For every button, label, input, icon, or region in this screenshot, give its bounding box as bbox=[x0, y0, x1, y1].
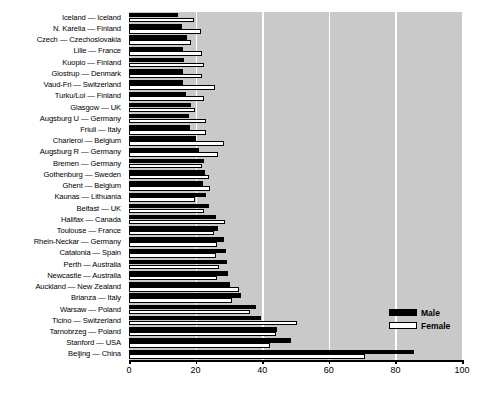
category-label: Turku/Loi — Finland bbox=[0, 91, 124, 102]
bar-female bbox=[129, 310, 250, 314]
bar-row bbox=[129, 236, 462, 247]
x-tick-label: 80 bbox=[390, 365, 400, 375]
bar-row bbox=[129, 135, 462, 146]
bar-male bbox=[129, 24, 182, 28]
bar-row bbox=[129, 23, 462, 34]
x-tick-label: 100 bbox=[454, 365, 469, 375]
bar-male bbox=[129, 204, 209, 208]
bar-row bbox=[129, 281, 462, 292]
x-tick bbox=[395, 360, 397, 364]
x-tick bbox=[462, 360, 464, 364]
category-label: Beijing — China bbox=[0, 349, 124, 360]
legend-swatch-male bbox=[389, 309, 417, 316]
x-tick bbox=[329, 360, 331, 364]
bar-female bbox=[129, 96, 204, 100]
bar-male bbox=[129, 136, 196, 140]
bar-female bbox=[129, 220, 225, 224]
bar-male bbox=[129, 159, 204, 163]
category-label: Kaunas — Lithuania bbox=[0, 192, 124, 203]
x-tick-label: 60 bbox=[324, 365, 334, 375]
x-tick bbox=[129, 360, 131, 364]
bar-female bbox=[129, 108, 195, 112]
bar-row bbox=[129, 192, 462, 203]
bar-row bbox=[129, 68, 462, 79]
category-label: Charleroi — Belgium bbox=[0, 135, 124, 146]
bar-row bbox=[129, 91, 462, 102]
bar-female bbox=[129, 332, 276, 336]
legend-label-female: Female bbox=[421, 321, 450, 331]
category-label: Iceland — Iceland bbox=[0, 12, 124, 23]
bar-male bbox=[129, 193, 206, 197]
bar-row bbox=[129, 203, 462, 214]
category-label: Perth — Australia bbox=[0, 259, 124, 270]
category-label: Lille — France bbox=[0, 46, 124, 57]
category-label: Glostrup — Denmark bbox=[0, 68, 124, 79]
x-tick-label: 40 bbox=[257, 365, 267, 375]
bar-female bbox=[129, 265, 219, 269]
bar-female bbox=[129, 253, 216, 257]
category-label: Augsburg R — Germany bbox=[0, 147, 124, 158]
bar-female bbox=[129, 18, 194, 22]
bar-male bbox=[129, 293, 241, 297]
category-label: Augsburg U — Germany bbox=[0, 113, 124, 124]
bar-female bbox=[129, 29, 201, 33]
bar-male bbox=[129, 305, 256, 309]
bar-female bbox=[129, 141, 224, 145]
bar-female bbox=[129, 242, 217, 246]
bar-row bbox=[129, 46, 462, 57]
bar-row bbox=[129, 225, 462, 236]
category-label: Newcastle — Australia bbox=[0, 270, 124, 281]
bar-female bbox=[129, 51, 202, 55]
bar-male bbox=[129, 35, 187, 39]
category-label: Catalonia — Spain bbox=[0, 248, 124, 259]
bar-female bbox=[129, 343, 270, 347]
bar-row bbox=[129, 169, 462, 180]
bar-male bbox=[129, 237, 224, 241]
bar-female bbox=[129, 287, 239, 291]
legend-label-male: Male bbox=[421, 308, 440, 318]
bar-male bbox=[129, 80, 183, 84]
bar-male bbox=[129, 58, 184, 62]
bar-row bbox=[129, 292, 462, 303]
bar-male bbox=[129, 350, 414, 354]
bar-female bbox=[129, 209, 204, 213]
bar-male bbox=[129, 170, 205, 174]
x-tick-label: 0 bbox=[126, 365, 131, 375]
bar-row bbox=[129, 12, 462, 23]
category-label: Tarnobrzeg — Poland bbox=[0, 326, 124, 337]
bar-male bbox=[129, 226, 218, 230]
category-label: Belfast — UK bbox=[0, 203, 124, 214]
x-tick bbox=[196, 360, 198, 364]
bar-female bbox=[129, 321, 297, 325]
bar-female bbox=[129, 119, 206, 123]
category-label: Glasgow — UK bbox=[0, 102, 124, 113]
bar-row bbox=[129, 124, 462, 135]
x-tick-label: 20 bbox=[191, 365, 201, 375]
bar-female bbox=[129, 231, 214, 235]
bar-male bbox=[129, 260, 227, 264]
category-label: N. Karelia — Finland bbox=[0, 23, 124, 34]
category-label: Rhein-Neckar — Germany bbox=[0, 236, 124, 247]
bar-row bbox=[129, 113, 462, 124]
bar-male bbox=[129, 316, 261, 320]
bar-male bbox=[129, 69, 183, 73]
category-label: Ticino — Switzerland bbox=[0, 315, 124, 326]
bar-female bbox=[129, 197, 195, 201]
bar-row bbox=[129, 180, 462, 191]
category-label: Vaud-Fri — Switzerland bbox=[0, 79, 124, 90]
legend-item-female: Female bbox=[389, 320, 467, 331]
category-label: Toulouse — France bbox=[0, 225, 124, 236]
bar-male bbox=[129, 181, 203, 185]
bar-row bbox=[129, 57, 462, 68]
bar-female bbox=[129, 85, 215, 89]
bar-male bbox=[129, 327, 277, 331]
category-label: Czech — Czechoslovakia bbox=[0, 34, 124, 45]
bar-row bbox=[129, 102, 462, 113]
bar-row bbox=[129, 147, 462, 158]
bar-male bbox=[129, 215, 216, 219]
bar-female bbox=[129, 298, 232, 302]
bar-male bbox=[129, 103, 191, 107]
category-label-column: Iceland — IcelandN. Karelia — FinlandCze… bbox=[0, 12, 124, 360]
bar-male bbox=[129, 125, 190, 129]
bar-row bbox=[129, 79, 462, 90]
